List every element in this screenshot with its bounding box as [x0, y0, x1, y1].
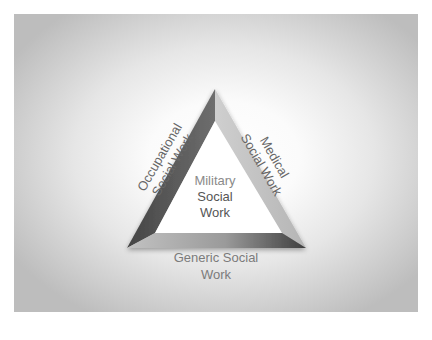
bottom-side-label-generic-social-work: Generic Social Work	[160, 249, 272, 283]
bottom-line-2: Work	[160, 266, 272, 283]
bevel-triangle	[0, 0, 432, 340]
center-line-2: Social	[183, 189, 247, 205]
center-line-3: Work	[183, 205, 247, 221]
center-line-1: Military	[183, 173, 247, 189]
center-label-military-social-work: Military Social Work	[183, 173, 247, 221]
bottom-face	[127, 233, 306, 248]
bottom-line-1: Generic Social	[160, 249, 272, 266]
